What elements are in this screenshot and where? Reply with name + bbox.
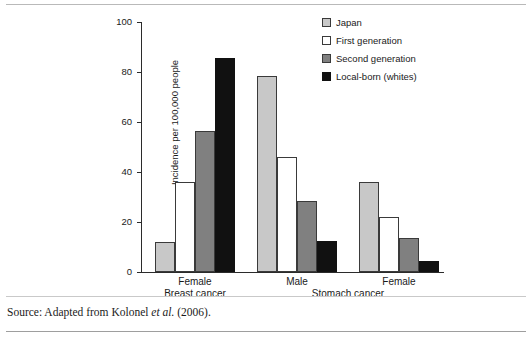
y-tick-label-80: 80 [108, 67, 132, 76]
legend-label: Second generation [336, 53, 416, 64]
legend-label: Local-born (whites) [336, 71, 417, 82]
x-tick-label-3: Female [359, 276, 439, 287]
legend-swatch-icon [322, 54, 331, 63]
y-tick-0 [137, 272, 142, 273]
bar-first-generation-group-1 [175, 182, 195, 272]
x-group-label-2: Stomach cancer [288, 288, 408, 299]
y-tick-label-0: 0 [108, 267, 132, 276]
y-tick-label-60: 60 [108, 117, 132, 126]
bar-japan-group-1 [155, 242, 175, 272]
legend-swatch-icon [322, 36, 331, 45]
figure-bottom-rule [6, 296, 526, 297]
bar-local-born-whites-group-1 [215, 58, 235, 272]
source-caption: Source: Adapted from Kolonel et al. (200… [7, 306, 211, 318]
bar-local-born-whites-group-3 [419, 261, 439, 272]
legend-item-1: Japan [322, 13, 417, 31]
x-group-label-1: Breast cancer [135, 288, 255, 299]
bar-second-generation-group-1 [195, 131, 215, 272]
y-tick-label-20: 20 [108, 217, 132, 226]
chart-legend: JapanFirst generationSecond generationLo… [322, 13, 417, 85]
legend-item-3: Second generation [322, 49, 417, 67]
bar-second-generation-group-3 [399, 238, 419, 272]
bar-japan-group-3 [359, 182, 379, 272]
legend-swatch-icon [322, 72, 331, 81]
bar-chart: 020406080100 Incidence per 100,000 peopl… [0, 0, 532, 296]
legend-item-2: First generation [322, 31, 417, 49]
legend-label: First generation [336, 35, 402, 46]
figure-panel: 020406080100 Incidence per 100,000 peopl… [0, 0, 532, 337]
bar-first-generation-group-3 [379, 217, 399, 272]
legend-swatch-icon [322, 18, 331, 27]
source-prefix: Source: Adapted from Kolonel [7, 306, 151, 318]
legend-label: Japan [336, 17, 362, 28]
legend-item-4: Local-born (whites) [322, 67, 417, 85]
source-suffix: (2006). [174, 306, 210, 318]
x-tick-label-2: Male [257, 276, 337, 287]
bar-second-generation-group-2 [297, 201, 317, 272]
bar-local-born-whites-group-2 [317, 241, 337, 272]
bar-japan-group-2 [257, 76, 277, 272]
y-tick-label-40: 40 [108, 167, 132, 176]
x-axis-line [141, 272, 444, 273]
y-tick-label-100: 100 [108, 17, 132, 26]
figure-footer-rule [6, 331, 526, 332]
source-italic: et al. [151, 306, 174, 318]
x-tick-label-1: Female [155, 276, 235, 287]
bar-first-generation-group-2 [277, 157, 297, 272]
